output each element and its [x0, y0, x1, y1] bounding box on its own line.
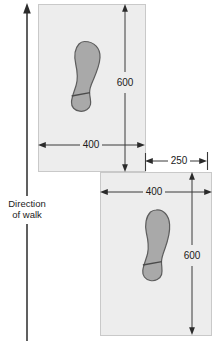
dimension-label-lower-height: 600: [184, 250, 201, 261]
dimension-label-upper-height: 600: [117, 77, 134, 88]
diagram-canvas: 600 400 250 400: [0, 0, 218, 352]
dimension-label-lateral-offset: 250: [171, 155, 188, 166]
dimension-lateral-offset: 250: [145, 152, 208, 171]
direction-label-line1: Direction: [8, 198, 46, 209]
dimension-label-lower-width: 400: [146, 186, 163, 197]
footprint-spacing-diagram: 600 400 250 400: [0, 0, 218, 352]
dimension-label-upper-width: 400: [83, 139, 100, 150]
direction-arrow-head: [23, 3, 31, 14]
arrow-head-left: [145, 158, 153, 164]
direction-label-line2: of walk: [12, 209, 42, 220]
arrow-head-right: [199, 158, 207, 164]
